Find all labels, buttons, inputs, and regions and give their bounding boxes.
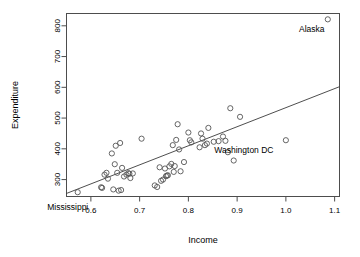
data-point [216, 139, 221, 144]
data-point [175, 122, 180, 127]
regression-line [67, 87, 340, 194]
x-axis-title: Income [188, 235, 218, 245]
point-annotation-label: Washington DC [214, 145, 273, 155]
y-tick-label: 600 [54, 80, 63, 94]
data-point [325, 17, 330, 22]
data-point [181, 159, 186, 164]
data-point [170, 143, 175, 148]
x-tick-label: 0.7 [134, 206, 146, 215]
plot-canvas: 0.60.70.80.91.01.1300400500600700800Inco… [0, 0, 360, 257]
data-point [119, 165, 124, 170]
data-point [206, 125, 211, 130]
x-tick-label: 0.8 [183, 206, 195, 215]
y-tick-label: 700 [54, 49, 63, 63]
point-annotation-label: Alaska [299, 24, 325, 34]
y-tick-label: 800 [54, 19, 63, 33]
data-point [186, 130, 191, 135]
data-point [109, 151, 114, 156]
y-tick-label: 500 [54, 111, 63, 125]
data-point [211, 139, 216, 144]
data-point [139, 136, 144, 141]
y-tick-label: 300 [54, 172, 63, 186]
data-point [157, 165, 162, 170]
x-tick-label: 1.0 [280, 206, 292, 215]
data-point [178, 169, 183, 174]
point-annotation-label: Mississippi [47, 202, 88, 212]
data-point [283, 138, 288, 143]
data-point [223, 138, 228, 143]
scatter-plot-figure: 0.60.70.80.91.01.1300400500600700800Inco… [0, 0, 360, 257]
data-point [118, 140, 123, 145]
data-point [112, 162, 117, 167]
x-tick-label: 1.1 [329, 206, 341, 215]
data-point [198, 131, 203, 136]
data-point [228, 106, 233, 111]
y-axis-title: Expenditure [10, 81, 20, 129]
data-point [237, 114, 242, 119]
data-point [75, 190, 80, 195]
data-point [197, 145, 202, 150]
data-point [174, 137, 179, 142]
plot-frame [67, 14, 340, 197]
y-tick-label: 400 [54, 142, 63, 156]
data-point [171, 169, 176, 174]
data-point [111, 187, 116, 192]
x-tick-label: 0.9 [232, 206, 244, 215]
data-point [231, 158, 236, 163]
